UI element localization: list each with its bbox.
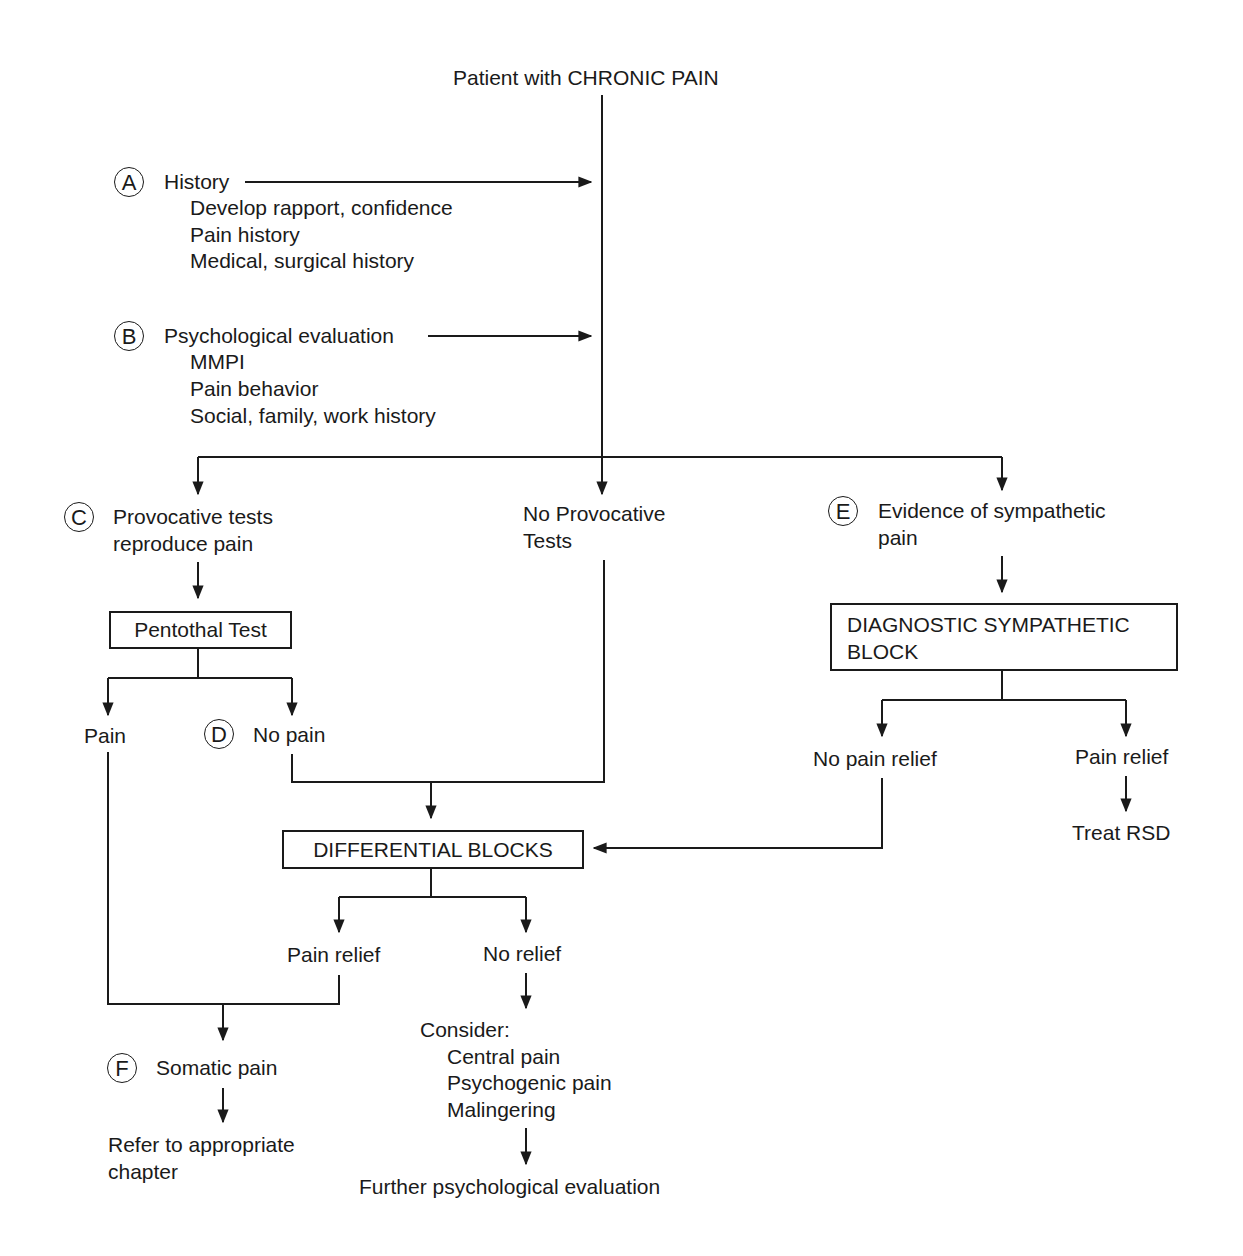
psych-eval-item: MMPI [190,348,245,375]
provocative-tests-label: Provocative tests [113,503,273,530]
consider-item: Central pain [447,1043,560,1070]
step-marker-c: C [64,502,94,532]
pentothal-test-label: Pentothal Test [134,618,267,641]
history-heading: History [164,168,229,195]
further-psych-eval-label: Further psychological evaluation [359,1173,660,1200]
history-item: Pain history [190,221,300,248]
differential-blocks-label: DIFFERENTIAL BLOCKS [313,838,553,861]
refer-chapter-label-2: chapter [108,1158,178,1185]
diff-no-relief-label: No relief [483,940,561,967]
no-provocative-label: No Provocative [523,500,665,527]
somatic-pain-label: Somatic pain [156,1054,277,1081]
no-pain-relief-label: No pain relief [813,745,937,772]
sympathetic-evidence-label-2: pain [878,524,918,551]
consider-heading: Consider: [420,1016,510,1043]
step-marker-a: A [114,167,144,197]
treat-rsd-label: Treat RSD [1072,819,1170,846]
pentothal-test-box: Pentothal Test [109,611,292,649]
psych-eval-heading: Psychological evaluation [164,322,394,349]
step-marker-b: B [114,321,144,351]
consider-item: Psychogenic pain [447,1069,612,1096]
diff-pain-relief-label: Pain relief [287,941,380,968]
dsb-label-line2: BLOCK [847,638,1176,665]
psych-eval-item: Social, family, work history [190,402,436,429]
diagram-title: Patient with CHRONIC PAIN [453,64,719,91]
refer-chapter-label: Refer to appropriate [108,1131,295,1158]
no-pain-outcome-label: No pain [253,721,325,748]
consider-item: Malingering [447,1096,556,1123]
history-item: Develop rapport, confidence [190,194,453,221]
step-marker-f: F [107,1053,137,1083]
provocative-tests-label-2: reproduce pain [113,530,253,557]
pain-relief-label: Pain relief [1075,743,1168,770]
psych-eval-item: Pain behavior [190,375,318,402]
differential-blocks-box: DIFFERENTIAL BLOCKS [282,830,584,869]
history-item: Medical, surgical history [190,247,414,274]
dsb-label-line1: DIAGNOSTIC SYMPATHETIC [847,611,1176,638]
sympathetic-evidence-label: Evidence of sympathetic [878,497,1106,524]
diagnostic-sympathetic-block-box: DIAGNOSTIC SYMPATHETIC BLOCK [830,603,1178,671]
step-marker-e: E [828,496,858,526]
pain-outcome-label: Pain [84,722,126,749]
no-provocative-label-2: Tests [523,527,572,554]
step-marker-d: D [204,719,234,749]
